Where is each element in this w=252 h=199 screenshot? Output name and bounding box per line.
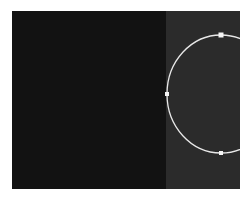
resize-handle-left[interactable] bbox=[165, 92, 169, 96]
resize-handle-bottom[interactable] bbox=[219, 151, 223, 155]
drawing-canvas[interactable] bbox=[12, 11, 240, 189]
ellipse-shape[interactable] bbox=[167, 35, 240, 153]
resize-handle-top[interactable] bbox=[219, 33, 224, 38]
shape-overlay bbox=[12, 11, 240, 189]
